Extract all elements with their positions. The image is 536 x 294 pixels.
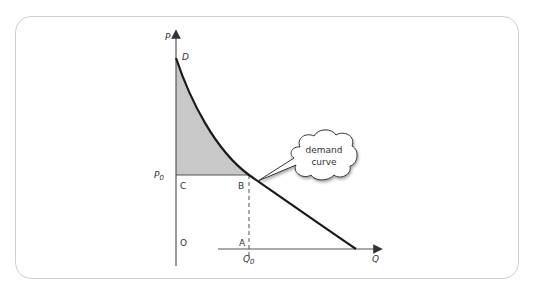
point-d-label: D [182,52,189,62]
demand-diagram: demand curve P D P0 C B O A Q0 Q [0,0,536,294]
origin-label: O [180,238,187,248]
callout-line1: demand [306,145,343,155]
point-a-label: A [239,238,246,248]
point-c-label: C [180,181,186,191]
x-axis-label: Q [372,254,379,264]
price-level-label: P0 [154,170,164,182]
point-b-label: B [238,181,244,191]
demand-curve-callout [258,130,357,181]
quantity-level-label: Q0 [243,254,255,266]
y-axis-label: P [165,32,171,42]
consumer-surplus-area [176,58,249,175]
callout-line2: curve [311,157,337,167]
